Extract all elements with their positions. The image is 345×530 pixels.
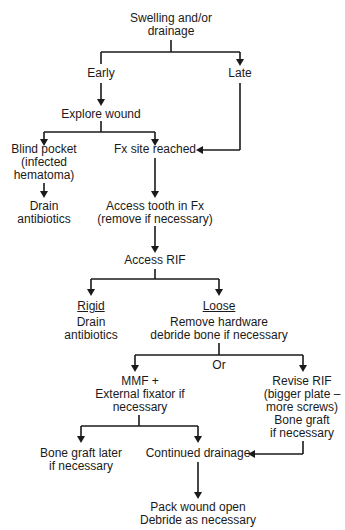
node-continued-drainage: Continued drainage <box>146 447 251 460</box>
node-text: Or <box>212 359 225 372</box>
node-fx-site-reached: Fx site reached <box>114 143 196 156</box>
node-text: if necessary <box>40 460 122 473</box>
node-text: debride bone if necessary <box>150 329 287 342</box>
node-loose: Loose Remove hardware debride bone if ne… <box>150 300 287 342</box>
node-explore-wound: Explore wound <box>61 108 140 121</box>
node-text: Explore wound <box>61 108 140 121</box>
node-text: Access RIF <box>124 254 185 267</box>
loose-heading: Loose <box>150 300 287 313</box>
node-text: Early <box>87 67 114 80</box>
rigid-heading: Rigid <box>64 300 117 313</box>
node-access-tooth: Access tooth in Fx (remove if necessary) <box>97 200 212 226</box>
node-pack-wound: Pack wound open Debride as necessary <box>140 501 256 527</box>
node-text: necessary <box>95 401 184 414</box>
node-text: if necessary <box>264 427 341 440</box>
node-mmf: MMF + External fixator if necessary <box>95 375 184 414</box>
node-late: Late <box>228 67 251 80</box>
node-early: Early <box>87 67 114 80</box>
node-text: Debride as necessary <box>140 514 256 527</box>
node-text: Fx site reached <box>114 143 196 156</box>
node-text: antibiotics <box>17 213 70 226</box>
node-access-rif: Access RIF <box>124 254 185 267</box>
node-drain-antibiotics-early: Drain antibiotics <box>17 200 70 226</box>
node-revise-rif: Revise RIF (bigger plate – more screws) … <box>264 375 341 440</box>
node-text: Late <box>228 67 251 80</box>
node-text: drainage <box>130 25 212 38</box>
node-text: (remove if necessary) <box>97 213 212 226</box>
node-rigid: Rigid Drain antibiotics <box>64 300 117 342</box>
node-text: hematoma) <box>11 169 76 182</box>
node-text: Continued drainage <box>146 447 251 460</box>
or-label: Or <box>212 359 225 372</box>
node-bone-graft-later: Bone graft later if necessary <box>40 447 122 473</box>
node-swelling-drainage: Swelling and/or drainage <box>130 12 212 38</box>
flowchart: Swelling and/or drainage Early Late Expl… <box>0 0 345 530</box>
node-text: antibiotics <box>64 329 117 342</box>
node-blind-pocket: Blind pocket (infected hematoma) <box>11 143 76 182</box>
